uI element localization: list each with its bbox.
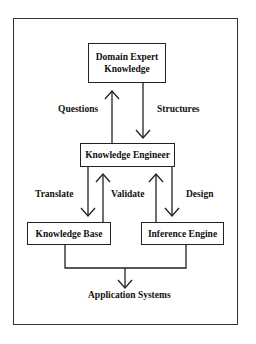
node-label-line2: Knowledge	[104, 63, 149, 75]
node-label: Knowledge Engineer	[85, 149, 170, 161]
node-label-line1: Domain Expert	[96, 51, 159, 63]
inference-engine-node: Inference Engine	[141, 222, 224, 245]
design-label: Design	[186, 189, 213, 199]
knowledge-engineer-node: Knowledge Engineer	[80, 143, 175, 167]
validate-label: Validate	[111, 189, 144, 199]
node-label: Inference Engine	[148, 228, 217, 240]
structures-label: Structures	[157, 104, 200, 114]
application-systems-label: Application Systems	[88, 290, 171, 300]
questions-label: Questions	[58, 104, 98, 114]
knowledge-base-node: Knowledge Base	[27, 222, 111, 245]
node-label: Knowledge Base	[36, 228, 103, 240]
domain-expert-knowledge-node: Domain Expert Knowledge	[88, 43, 166, 83]
merge-connector	[65, 245, 186, 268]
translate-label: Translate	[35, 189, 73, 199]
